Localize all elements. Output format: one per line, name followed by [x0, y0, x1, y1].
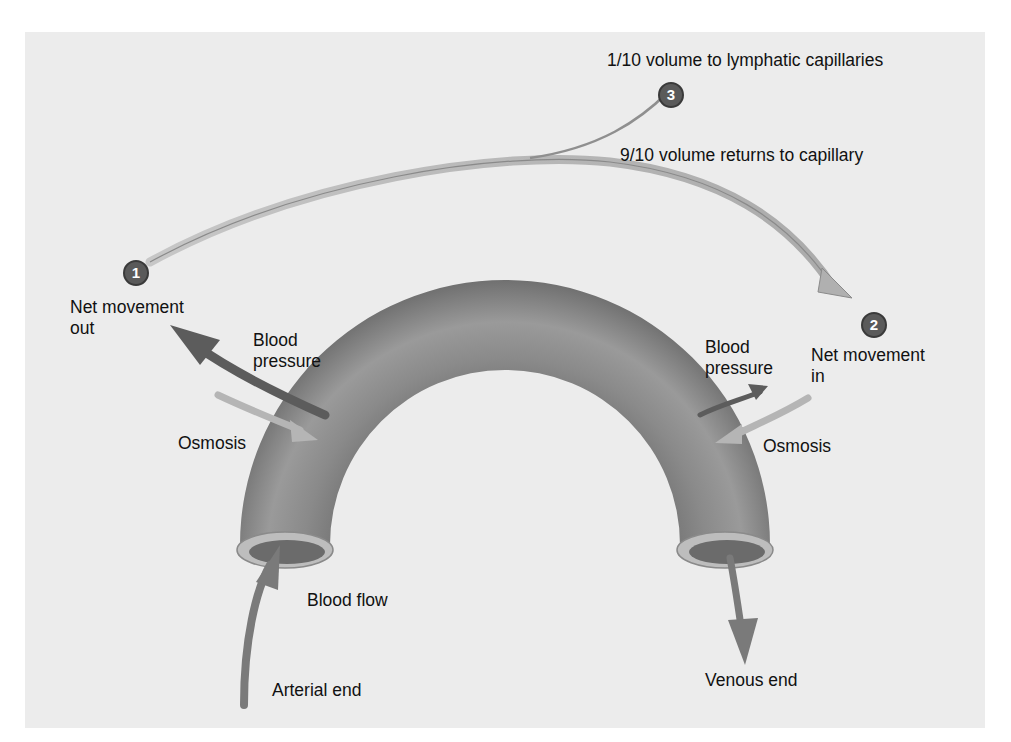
step-badge-1: 1: [123, 260, 149, 286]
osmosis-label-left: Osmosis: [178, 433, 246, 454]
return-flow-arrow: [150, 159, 852, 298]
lymphatic-label: 1/10 volume to lymphatic capillaries: [607, 50, 883, 71]
arterial-end-label: Arterial end: [272, 680, 362, 701]
return-volume-label: 9/10 volume returns to capillary: [620, 145, 863, 166]
osmosis-label-right: Osmosis: [763, 436, 831, 457]
blood-pressure-label-right: Blood pressure: [705, 337, 773, 379]
venous-end-label: Venous end: [705, 670, 797, 691]
step-badge-3: 3: [658, 82, 684, 108]
blood-pressure-label-left: Blood pressure: [253, 330, 321, 372]
capillary-vessel: [237, 280, 773, 568]
net-movement-out-label: Net movement out: [70, 297, 184, 339]
blood-flow-out-arrow: [728, 558, 758, 665]
blood-flow-label: Blood flow: [307, 590, 388, 611]
net-movement-in-label: Net movement in: [811, 345, 925, 387]
step-badge-2: 2: [861, 312, 887, 338]
